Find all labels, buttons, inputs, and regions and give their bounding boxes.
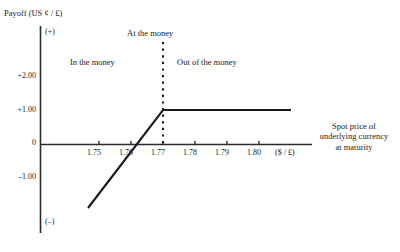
x-axis-title-line2: underlying currency: [310, 131, 398, 142]
y-tick-label-2: +2.00: [8, 71, 36, 80]
annotation-out-of-the-money: Out of the money: [177, 57, 237, 67]
payoff-line: [88, 110, 291, 208]
y-tick-label-1: +1.00: [8, 105, 36, 114]
y-tick-label-neg1: –1.00: [8, 172, 36, 181]
y-tick-label-0: 0: [8, 138, 36, 147]
x-tick-label-180: 1.80: [247, 148, 261, 157]
x-tick-label-177: 1.77: [151, 148, 165, 157]
x-axis-unit-label: ($ / £): [275, 148, 295, 157]
x-tick-label-178: 1.78: [183, 148, 197, 157]
x-axis-title-line1: Spot price of: [310, 121, 398, 132]
x-tick-label-175: 1.75: [87, 148, 101, 157]
annotation-at-the-money: At the money: [127, 28, 173, 38]
annotation-in-the-money: In the money: [70, 57, 115, 67]
payoff-diagram: Payoff (US ¢ / £) (+) (–) +2.00 +1.00 0 …: [0, 0, 400, 252]
x-tick-label-179: 1.79: [215, 148, 229, 157]
x-tick-label-176: 1.76: [119, 148, 133, 157]
y-axis-title: Payoff (US ¢ / £): [4, 8, 62, 18]
x-axis-title-line3: at maturity: [310, 142, 398, 153]
positive-sign-label: (+): [45, 27, 55, 36]
negative-sign-label: (–): [45, 217, 54, 226]
